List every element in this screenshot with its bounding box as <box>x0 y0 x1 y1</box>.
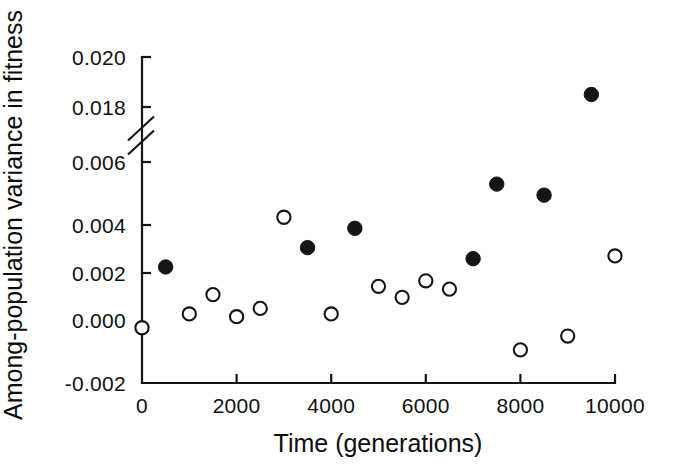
x-axis-title: Time (generations) <box>274 429 483 457</box>
x-tick-label: 8000 <box>496 394 544 417</box>
data-point-filled <box>158 260 172 274</box>
data-point-filled <box>348 221 362 235</box>
data-point-open <box>230 310 243 323</box>
y-axis-title: Among-population variance in fitness <box>0 10 27 420</box>
data-point-filled <box>300 240 314 254</box>
y-tick-label: 0.006 <box>72 151 126 174</box>
data-point-open <box>325 307 338 320</box>
y-tick-label: 0.002 <box>72 262 126 285</box>
data-point-filled <box>466 251 480 265</box>
x-tick-labels: 0200040006000800010000 <box>136 394 645 417</box>
scatter-plot: -0.0020.0000.0020.0040.0060.0180.020 020… <box>0 0 689 476</box>
tick-marks <box>142 107 520 383</box>
y-tick-label: 0.004 <box>72 214 126 237</box>
data-point-filled <box>490 177 504 191</box>
data-point-open <box>206 288 219 301</box>
data-point-open <box>561 329 574 342</box>
data-point-open <box>372 280 385 293</box>
data-point-filled <box>584 87 598 101</box>
x-tick-label: 10000 <box>585 394 645 417</box>
figure-panel: -0.0020.0000.0020.0040.0060.0180.020 020… <box>0 0 689 476</box>
data-point-filled <box>537 188 551 202</box>
data-point-open <box>135 321 148 334</box>
data-point-open <box>183 307 196 320</box>
y-tick-labels: -0.0020.0000.0020.0040.0060.0180.020 <box>65 46 126 395</box>
y-tick-label: -0.002 <box>65 372 126 395</box>
y-tick-label: 0.000 <box>72 309 126 332</box>
data-point-open <box>277 211 290 224</box>
y-tick-label: 0.020 <box>72 46 126 69</box>
data-point-open <box>514 343 527 356</box>
data-point-open <box>608 249 621 262</box>
data-point-open <box>254 302 267 315</box>
x-tick-label: 4000 <box>307 394 355 417</box>
open-circle-series <box>135 211 621 357</box>
data-point-open <box>396 291 409 304</box>
filled-circle-series <box>158 87 598 274</box>
x-tick-label: 6000 <box>402 394 450 417</box>
y-tick-label: 0.018 <box>72 96 126 119</box>
x-tick-label: 2000 <box>213 394 261 417</box>
data-point-open <box>443 282 456 295</box>
data-point-open <box>419 274 432 287</box>
x-tick-label: 0 <box>136 394 148 417</box>
axes <box>142 57 615 383</box>
